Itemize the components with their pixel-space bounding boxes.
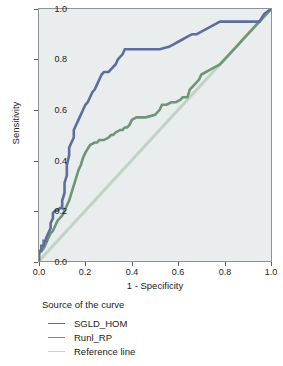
y-tick-mark — [34, 211, 38, 212]
x-tick-mark — [225, 262, 226, 266]
y-tick-label: 0.6 — [41, 106, 67, 115]
legend-item-reference-line: Reference line — [48, 344, 272, 358]
roc-chart: 0.0 0.2 0.4 0.6 0.8 1.0 0.0 0.2 0.4 0.6 … — [0, 0, 283, 366]
y-tick-label: 0.2 — [41, 207, 67, 216]
x-tick-mark — [39, 262, 40, 266]
x-tick-label: 0.2 — [70, 268, 100, 277]
x-tick-label: 0.8 — [210, 268, 240, 277]
y-tick-label: 1.0 — [41, 5, 67, 14]
legend-item-label: Runl_RP — [74, 332, 112, 343]
y-tick-label: 0.0 — [41, 258, 67, 267]
legend-swatch-icon — [48, 323, 65, 324]
plot-area — [38, 8, 272, 262]
x-tick-label: 0.6 — [163, 268, 193, 277]
x-tick-label: 0.4 — [117, 268, 147, 277]
x-tick-label: 0.0 — [24, 268, 54, 277]
x-tick-mark — [271, 262, 272, 266]
x-tick-label: 1.0 — [256, 268, 283, 277]
x-tick-mark — [85, 262, 86, 266]
y-tick-mark — [34, 59, 38, 60]
legend-swatch-icon — [48, 337, 65, 338]
legend-swatch-icon — [48, 351, 65, 352]
x-tick-mark — [178, 262, 179, 266]
legend-item-label: SGLD_HOM — [74, 318, 127, 329]
legend-item-runl-rp: Runl_RP — [48, 330, 272, 344]
y-tick-mark — [34, 262, 38, 263]
x-axis-title: 1 - Specificity — [38, 281, 272, 291]
y-tick-label: 0.8 — [41, 55, 67, 64]
legend-item-label: Reference line — [74, 346, 135, 357]
legend-item-sgld-hom: SGLD_HOM — [48, 316, 272, 330]
y-tick-mark — [34, 110, 38, 111]
y-tick-label: 0.4 — [41, 157, 67, 166]
legend: Source of the curve SGLD_HOM Runl_RP Ref… — [42, 299, 272, 358]
curves-svg — [39, 9, 271, 261]
y-tick-mark — [34, 161, 38, 162]
y-axis-title: Sensitivity — [11, 79, 21, 167]
legend-title: Source of the curve — [42, 299, 272, 310]
x-tick-mark — [132, 262, 133, 266]
y-tick-mark — [34, 9, 38, 10]
